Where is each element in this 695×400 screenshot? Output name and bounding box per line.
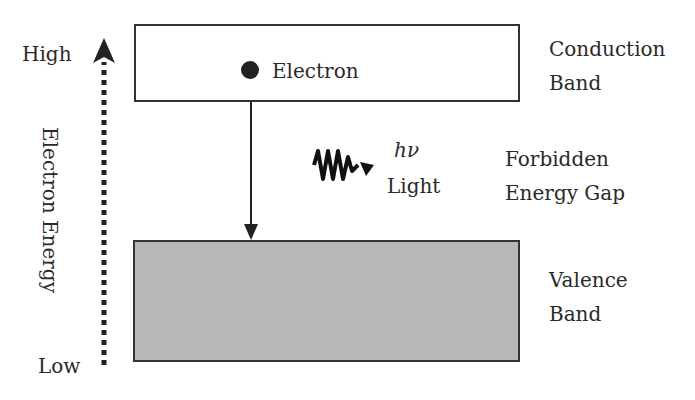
axis-low-label: Low [38,356,80,376]
electron-dot-icon [241,61,259,79]
photon-arrowhead-icon [360,162,374,176]
light-label: Light [387,176,440,196]
valence-line1: Valence [549,263,628,297]
conduction-line1: Conduction [549,32,665,66]
valence-band-label: Valence Band [549,263,628,331]
gap-line1: Forbidden [505,142,625,176]
electron-label: Electron [272,61,359,81]
valence-line2: Band [549,297,628,331]
gap-label: Forbidden Energy Gap [505,142,625,210]
transition-arrowhead-icon [244,224,258,240]
photon-symbol: hν [394,140,419,160]
valence-band-box [133,240,520,362]
conduction-line2: Band [549,66,665,100]
gap-line2: Energy Gap [505,176,625,210]
photon-wave-icon [314,151,358,179]
axis-title: Electron Energy [40,127,60,293]
conduction-band-label: Conduction Band [549,32,665,100]
axis-high-label: High [22,44,72,64]
axis-arrowhead-icon [93,38,115,63]
